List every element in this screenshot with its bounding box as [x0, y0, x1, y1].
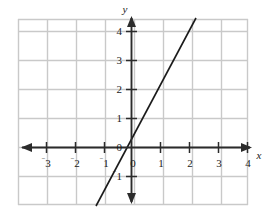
x-tick-label: 1	[158, 157, 164, 169]
y-tick-label: 1	[117, 112, 123, 124]
coordinate-plane-figure: ⁻3 ⁻2 ⁻1 0 1 2 3 4 4 3 2 1 0 ⁻1 y x	[0, 0, 270, 209]
x-tick-label: 4	[245, 157, 251, 169]
x-tick-label-zero: 0	[130, 157, 136, 169]
y-tick-label-zero: 0	[117, 141, 123, 153]
x-tick-label: 2	[187, 157, 193, 169]
y-axis-label: y	[122, 3, 128, 15]
y-tick-label: 3	[117, 54, 123, 66]
x-tick-label: 3	[216, 157, 222, 169]
y-tick-label: 4	[117, 25, 123, 37]
coordinate-plane-svg: ⁻3 ⁻2 ⁻1 0 1 2 3 4 4 3 2 1 0 ⁻1 y x	[0, 0, 270, 209]
x-axis-label: x	[256, 149, 262, 161]
y-tick-label: 2	[117, 83, 123, 95]
